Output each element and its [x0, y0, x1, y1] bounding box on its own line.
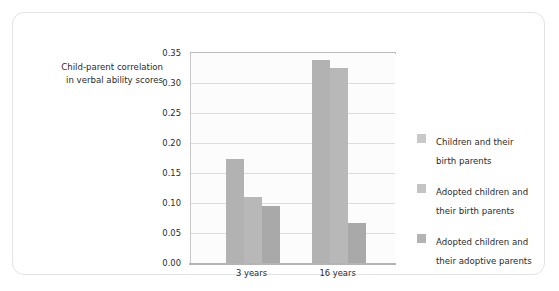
- bar: [312, 60, 330, 263]
- x-axis-baseline: [189, 263, 396, 265]
- y-axis-tick-label: 0.15: [162, 168, 181, 178]
- legend-label: Children and their birth parents: [436, 137, 513, 166]
- gridline: [191, 83, 395, 84]
- legend-item: Adopted children and their adoptive pare…: [417, 230, 552, 268]
- y-axis-tick-label: 0.25: [162, 108, 181, 118]
- legend-label: Adopted children and their birth parents: [436, 187, 528, 216]
- y-axis-tick-label: 0.00: [162, 258, 181, 268]
- legend-swatch-icon: [417, 184, 426, 193]
- gridline: [191, 113, 395, 114]
- y-axis-tick-label: 0.20: [162, 138, 181, 148]
- gridline: [191, 173, 395, 174]
- legend-swatch-icon: [417, 134, 426, 143]
- x-axis-tick-label: 3 years: [236, 268, 267, 278]
- plot-area: [190, 53, 395, 263]
- y-axis-tick-label: 0.30: [162, 78, 181, 88]
- bar: [244, 197, 262, 263]
- bar: [348, 223, 366, 263]
- bar: [330, 68, 348, 263]
- y-axis-tick-label: 0.10: [162, 198, 181, 208]
- y-axis-title: Child-parent correlation in verbal abili…: [23, 61, 163, 86]
- y-axis-tick-label: 0.05: [162, 228, 181, 238]
- gridline: [191, 143, 395, 144]
- y-axis-tick-label: 0.35: [162, 48, 181, 58]
- x-axis-tick-label: 16 years: [319, 268, 355, 278]
- bar: [262, 206, 280, 263]
- chart-card: Child-parent correlation in verbal abili…: [12, 12, 545, 275]
- legend-item: Children and their birth parents: [417, 130, 552, 168]
- y-axis-tick-labels: 0.350.300.250.200.150.100.050.00: [145, 43, 185, 283]
- bar: [226, 159, 244, 263]
- legend-item: Adopted children and their birth parents: [417, 180, 552, 218]
- legend-swatch-icon: [417, 234, 426, 243]
- gridline: [191, 203, 395, 204]
- chart-legend: Children and their birth parentsAdopted …: [417, 130, 552, 280]
- legend-label: Adopted children and their adoptive pare…: [436, 237, 532, 266]
- plot-wrapper: 0.350.300.250.200.150.100.050.00 3 years…: [145, 43, 405, 283]
